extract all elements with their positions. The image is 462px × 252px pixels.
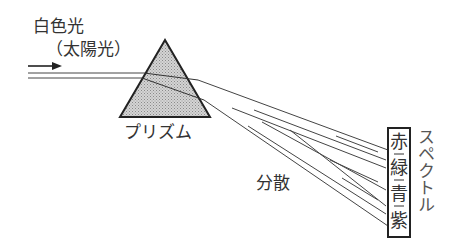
- direction-arrow-icon: [28, 62, 62, 70]
- dispersed-rays: [198, 80, 388, 226]
- sunlight-label: （太陽光）: [46, 41, 131, 58]
- spectrum-label: スペクトル: [415, 128, 436, 213]
- dispersion-label: 分散: [256, 175, 290, 192]
- prism-label: プリズム: [124, 124, 192, 141]
- incoming-rays: [28, 73, 144, 78]
- spectrum-red: 赤: [388, 133, 410, 151]
- spectrum-green: 緑: [388, 159, 410, 177]
- spectrum-violet: 紫: [388, 212, 410, 230]
- spectrum-blue: 青: [388, 185, 410, 203]
- white-light-label: 白色光: [33, 18, 84, 35]
